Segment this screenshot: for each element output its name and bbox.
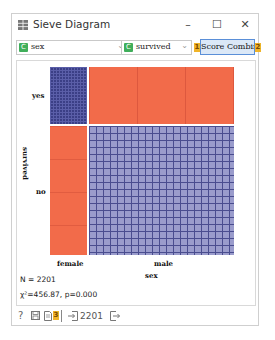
cell-male-no bbox=[89, 126, 234, 255]
y-attribute-value: survived bbox=[136, 42, 171, 51]
categorical-variable-icon: C bbox=[124, 43, 133, 52]
x-category-male: male bbox=[154, 259, 173, 268]
chi-square-stat: χ²=456.87, p=0.000 bbox=[20, 290, 97, 299]
report-icon[interactable] bbox=[44, 311, 52, 321]
sieve-plot-area: yes no survived female male sex N = 2201… bbox=[16, 60, 256, 306]
cell-female-yes bbox=[50, 67, 87, 124]
help-icon[interactable]: ? bbox=[18, 310, 23, 321]
input-data-icon bbox=[68, 311, 78, 321]
maximize-button[interactable]: ☐ bbox=[205, 17, 229, 33]
chevron-down-icon: ⌄ bbox=[181, 41, 188, 50]
cell-female-no bbox=[50, 126, 87, 255]
badge-3: 3 bbox=[53, 311, 59, 320]
save-icon[interactable] bbox=[31, 311, 40, 320]
n-total: N = 2201 bbox=[20, 275, 56, 284]
sieve-diagram-window: Sieve Diagram – ☐ ✕ C sex ⌄ ✕ C survived… bbox=[11, 13, 259, 326]
x-axis-label: sex bbox=[145, 271, 158, 280]
output-data-icon bbox=[110, 311, 120, 321]
x-category-female: female bbox=[57, 259, 84, 268]
minimize-button[interactable]: – bbox=[176, 17, 200, 33]
score-combinations-button[interactable]: Score Combinations bbox=[200, 39, 255, 55]
badge-2: 2 bbox=[255, 43, 261, 52]
cell-male-yes bbox=[89, 67, 234, 124]
status-divider bbox=[61, 310, 62, 322]
close-button[interactable]: ✕ bbox=[233, 17, 257, 33]
sieve-diagram-app-icon bbox=[18, 20, 28, 30]
input-count: 2201 bbox=[80, 311, 103, 321]
y-attribute-combo[interactable]: C survived ⌄ bbox=[121, 40, 192, 55]
status-bar: ? 3 2201 bbox=[16, 310, 256, 324]
y-category-yes: yes bbox=[32, 91, 44, 100]
y-category-no: no bbox=[36, 187, 46, 196]
y-axis-label: survived bbox=[21, 147, 30, 180]
window-title: Sieve Diagram bbox=[33, 18, 110, 30]
title-bar: Sieve Diagram – ☐ ✕ bbox=[12, 14, 258, 36]
